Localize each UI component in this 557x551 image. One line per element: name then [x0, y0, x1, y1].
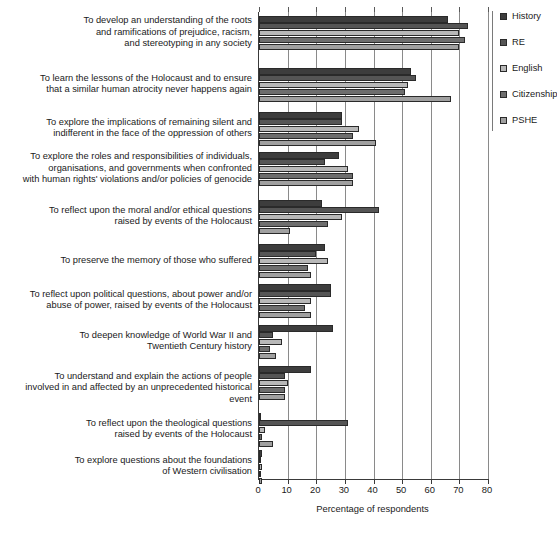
legend-swatch-icon-re: [500, 39, 507, 46]
bar-english-7: [259, 339, 282, 346]
x-tick-label-10: 10: [274, 484, 300, 495]
plot-area: [258, 12, 488, 480]
bar-citizenship-0: [259, 37, 465, 44]
bar-english-6: [259, 298, 311, 305]
bar-pshe-4: [259, 228, 290, 235]
bar-history-1: [259, 68, 411, 75]
bar-english-1: [259, 82, 408, 89]
bar-re-1: [259, 75, 416, 82]
bar-pshe-2: [259, 140, 376, 147]
bar-citizenship-5: [259, 265, 308, 272]
x-tick-label-20: 20: [302, 484, 328, 495]
bar-citizenship-8: [259, 387, 285, 394]
x-tick-label-40: 40: [360, 484, 386, 495]
x-tick-label-80: 80: [474, 484, 500, 495]
bar-history-6: [259, 284, 331, 291]
bar-english-8: [259, 380, 288, 387]
bar-re-10: [259, 457, 261, 464]
bar-history-9: [259, 413, 261, 420]
bar-english-9: [259, 427, 265, 434]
bar-history-2: [259, 112, 342, 119]
x-tick-label-60: 60: [417, 484, 443, 495]
bar-citizenship-10: [259, 471, 261, 478]
legend-label: Citizenship: [512, 89, 557, 99]
bar-history-3: [259, 152, 339, 159]
bar-citizenship-2: [259, 133, 353, 140]
legend-item-history[interactable]: History: [500, 11, 541, 21]
legend-label: PSHE: [512, 115, 537, 125]
gridline-60: [431, 12, 432, 479]
tick-top-30: [345, 7, 346, 12]
legend-label: English: [512, 63, 543, 73]
bar-history-8: [259, 366, 311, 373]
bar-history-7: [259, 325, 333, 332]
bar-re-6: [259, 291, 331, 298]
gridline-80: [488, 12, 489, 479]
bar-citizenship-7: [259, 346, 270, 353]
gridline-70: [459, 12, 460, 479]
bar-english-0: [259, 30, 459, 37]
bar-pshe-3: [259, 180, 353, 187]
bar-history-10: [259, 450, 262, 457]
bar-pshe-8: [259, 394, 285, 401]
category-axis-labels: To develop an understanding of the roots…: [0, 0, 256, 470]
category-label-0: To develop an understanding of the roots…: [84, 15, 253, 49]
bar-pshe-6: [259, 312, 311, 319]
tick-top-70: [459, 7, 460, 12]
bar-re-4: [259, 207, 379, 214]
bar-citizenship-9: [259, 434, 262, 441]
bar-citizenship-4: [259, 221, 328, 228]
x-tick-label-70: 70: [445, 484, 471, 495]
bar-english-5: [259, 258, 328, 265]
bar-re-2: [259, 119, 342, 126]
legend-swatch-icon-citizenship: [500, 91, 507, 98]
bar-english-10: [259, 464, 262, 471]
legend-swatch-icon-english: [500, 65, 507, 72]
bar-re-0: [259, 23, 468, 30]
legend-swatch-icon-history: [500, 13, 507, 20]
bar-citizenship-1: [259, 89, 405, 96]
legend-item-citizenship[interactable]: Citizenship: [500, 89, 557, 99]
tick-top-80: [488, 7, 489, 12]
category-label-1: To learn the lessons of the Holocaust an…: [40, 73, 252, 96]
tick-top-40: [374, 7, 375, 12]
tick-top-0: [259, 7, 260, 12]
bar-re-5: [259, 251, 316, 258]
category-label-3: To explore the roles and responsibilitie…: [23, 151, 252, 185]
bar-english-4: [259, 214, 342, 221]
category-label-5: To preserve the memory of those who suff…: [60, 255, 252, 266]
legend-item-english[interactable]: English: [500, 63, 543, 73]
category-label-10: To explore questions about the foundatio…: [75, 455, 252, 478]
bar-history-0: [259, 16, 448, 23]
x-axis-title: Percentage of respondents: [258, 503, 487, 514]
tick-top-60: [431, 7, 432, 12]
bar-re-8: [259, 373, 285, 380]
bar-citizenship-3: [259, 173, 353, 180]
category-label-4: To reflect upon the moral and/or ethical…: [49, 205, 252, 228]
x-tick-label-50: 50: [388, 484, 414, 495]
bar-english-3: [259, 166, 348, 173]
bar-history-5: [259, 244, 325, 251]
legend-label: History: [512, 11, 541, 21]
bar-citizenship-6: [259, 305, 305, 312]
bar-re-9: [259, 420, 348, 427]
bar-pshe-5: [259, 272, 311, 279]
bar-pshe-1: [259, 96, 451, 103]
category-label-9: To reflect upon the theological question…: [86, 418, 252, 441]
legend-label: RE: [512, 37, 525, 47]
category-label-7: To deepen knowledge of World War II and …: [79, 330, 252, 353]
category-label-6: To reflect upon political questions, abo…: [30, 289, 252, 312]
legend-item-re[interactable]: RE: [500, 37, 525, 47]
bar-english-2: [259, 126, 359, 133]
bar-re-7: [259, 332, 273, 339]
category-label-2: To explore the implications of remaining…: [46, 117, 252, 140]
bar-pshe-9: [259, 441, 273, 448]
legend-swatch-icon-pshe: [500, 117, 507, 124]
tick-top-10: [288, 7, 289, 12]
tick-top-50: [402, 7, 403, 12]
x-tick-label-30: 30: [331, 484, 357, 495]
bar-pshe-0: [259, 44, 459, 51]
bar-history-4: [259, 200, 322, 207]
legend-item-pshe[interactable]: PSHE: [500, 115, 537, 125]
